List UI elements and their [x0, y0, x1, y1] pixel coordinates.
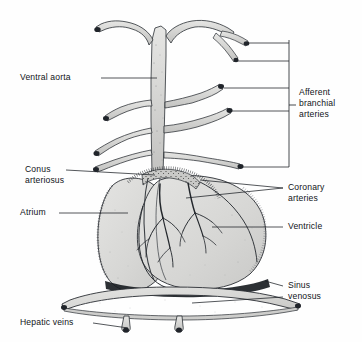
label-afferent-line1: Afferent: [299, 87, 330, 98]
afferent-artery-2-right-tip: [233, 58, 238, 62]
afferent-artery-left-4: [95, 150, 152, 172]
label-conus-arteriosus-line1: Conus: [25, 164, 51, 175]
label-coronary-line1: Coronary: [288, 182, 325, 193]
afferent-artery-left-3-tip: [94, 151, 100, 156]
afferent-artery-right-4-tip: [238, 164, 244, 169]
label-atrium: Atrium: [20, 207, 46, 218]
afferent-artery-left-2-tip: [103, 116, 109, 121]
label-ventricle: Ventricle: [288, 221, 322, 232]
afferent-artery-right-3: [164, 108, 231, 133]
hepatic-vein-left-tip: [123, 327, 129, 332]
afferent-artery-1-right-tip: [244, 41, 250, 45]
hepatic-vein-right-tip: [176, 327, 182, 332]
label-conus-arteriosus-line2: arteriosus: [25, 175, 64, 186]
heart-body: [98, 168, 266, 291]
leader-conus-arteriosus: [66, 170, 155, 175]
figure-page: Ventral aorta Conus arteriosus Atrium He…: [0, 0, 362, 342]
afferent-artery-right-2: [165, 84, 223, 108]
label-afferent-line3: arteries: [299, 109, 329, 120]
vascular-tree: [93, 20, 249, 175]
sinus-texture: [100, 300, 263, 313]
afferent-artery-right-3-tip: [227, 108, 233, 113]
sinus-venosus-left-tip: [61, 305, 67, 310]
label-sinus-line1: Sinus: [288, 280, 310, 291]
sinus-venosus-right-tip: [295, 304, 301, 309]
afferent-artery-left-4-tip: [93, 167, 99, 172]
label-ventral-aorta: Ventral aorta: [20, 72, 71, 83]
aorta-fork-left-tip: [94, 27, 100, 32]
afferent-artery-right-2-tip: [218, 84, 224, 89]
label-sinus-line2: venosus: [288, 291, 321, 302]
label-coronary-line2: arteries: [288, 193, 318, 204]
sinus-venosus-group: [61, 279, 301, 333]
label-hepatic-veins: Hepatic veins: [20, 317, 74, 328]
aorta-fork-left: [96, 21, 153, 45]
afferent-artery-left-2: [105, 100, 152, 121]
label-afferent-line2: branchial: [299, 98, 335, 109]
afferent-artery-right-4: [164, 152, 240, 169]
